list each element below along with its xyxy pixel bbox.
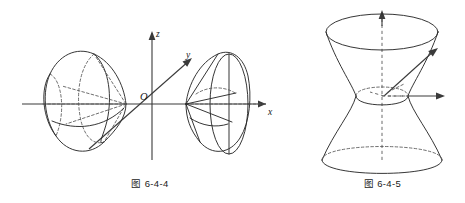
y-axis-label: y <box>186 51 190 61</box>
figure-board: z y x O <box>0 0 465 203</box>
y-axis <box>370 48 438 96</box>
z-axis-label: z <box>156 30 160 40</box>
right-sheet <box>186 52 266 154</box>
figure-caption-6-4-5: 图 6-4-5 <box>300 176 465 190</box>
x-axis <box>382 93 445 100</box>
figure-6-4-5-drawing <box>300 0 465 176</box>
figure-hyperboloid-two-sheets: z y x O <box>0 0 300 203</box>
origin-label: O <box>140 92 148 103</box>
x-axis-label: x <box>268 108 272 118</box>
figure-hyperboloid-one-sheet: z y x O <box>300 0 465 203</box>
figure-caption-6-4-4: 图 6-4-4 <box>0 176 300 190</box>
z-axis <box>379 10 386 160</box>
left-sheet <box>43 51 126 151</box>
figure-6-4-4-drawing <box>0 0 300 176</box>
